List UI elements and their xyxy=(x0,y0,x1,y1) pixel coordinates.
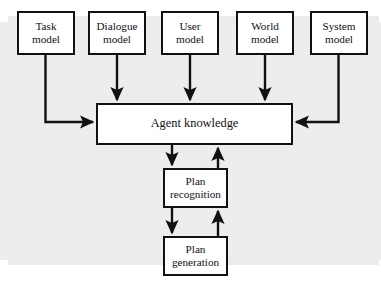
edge-system-to-agent xyxy=(296,55,339,122)
diagram-canvas: Task model Dialogue model User model Wor… xyxy=(0,0,381,287)
node-dialogue-model[interactable]: Dialogue model xyxy=(88,11,146,55)
node-world-model[interactable]: World model xyxy=(236,11,294,55)
edge-task-to-agent xyxy=(46,55,94,122)
node-user-model-label: User model xyxy=(174,20,206,45)
node-system-model[interactable]: System model xyxy=(310,11,368,55)
node-plan-recognition[interactable]: Plan recognition xyxy=(163,168,228,208)
node-system-model-label: System model xyxy=(321,20,358,45)
node-user-model[interactable]: User model xyxy=(161,11,219,55)
node-plan-generation-label: Plan generation xyxy=(170,243,221,268)
node-plan-generation[interactable]: Plan generation xyxy=(163,236,228,276)
node-world-model-label: World model xyxy=(249,20,281,45)
node-task-model-label: Task model xyxy=(30,20,62,45)
node-dialogue-model-label: Dialogue model xyxy=(94,20,139,45)
node-agent-knowledge-label: Agent knowledge xyxy=(149,117,241,131)
node-agent-knowledge[interactable]: Agent knowledge xyxy=(96,103,293,145)
node-plan-recognition-label: Plan recognition xyxy=(168,175,223,200)
node-task-model[interactable]: Task model xyxy=(17,11,75,55)
